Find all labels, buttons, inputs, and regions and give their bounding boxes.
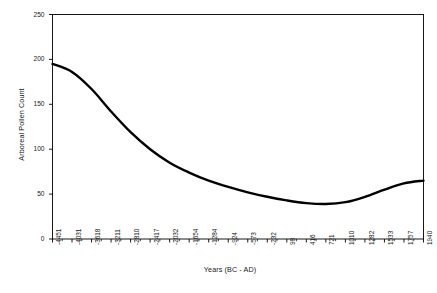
x-axis-title: Years (BC - AD) [175, 265, 285, 274]
y-axis-title: Arboreal Pollen Count [17, 60, 26, 190]
x-tick-label: 1757 [407, 231, 414, 245]
y-tick-label: 100 [19, 145, 45, 152]
x-tick-label: -2417 [153, 229, 160, 245]
y-tick-label: 0 [19, 235, 45, 242]
y-tick-label: 50 [19, 190, 45, 197]
x-tick-label: 1533 [387, 231, 394, 245]
x-tick-label: -924 [231, 232, 238, 245]
x-tick-label: 1940 [426, 231, 433, 245]
arboreal-pollen-chart: Arboreal Pollen Count Years (BC - AD) 05… [0, 0, 437, 293]
x-tick-label: -3618 [94, 229, 101, 245]
x-tick-label: -232 [270, 232, 277, 245]
x-tick-label: -4031 [75, 229, 82, 245]
x-tick-label: 1010 [348, 231, 355, 245]
x-tick-label: 98 [289, 238, 296, 245]
y-tick-label: 150 [19, 100, 45, 107]
x-tick-label: 1282 [368, 231, 375, 245]
x-tick-label: -1284 [211, 229, 218, 245]
y-tick-label: 250 [19, 11, 45, 18]
plot-svg [0, 0, 437, 293]
x-tick-label: 721 [328, 234, 335, 245]
x-tick-label: -2032 [172, 229, 179, 245]
chart-background [0, 0, 437, 293]
x-tick-label: -573 [250, 232, 257, 245]
x-tick-label: -4451 [55, 229, 62, 245]
x-tick-label: -1654 [192, 229, 199, 245]
x-tick-label: -2810 [133, 229, 140, 245]
y-tick-label: 200 [19, 55, 45, 62]
x-tick-label: -3211 [114, 229, 121, 245]
x-tick-label: 416 [309, 234, 316, 245]
